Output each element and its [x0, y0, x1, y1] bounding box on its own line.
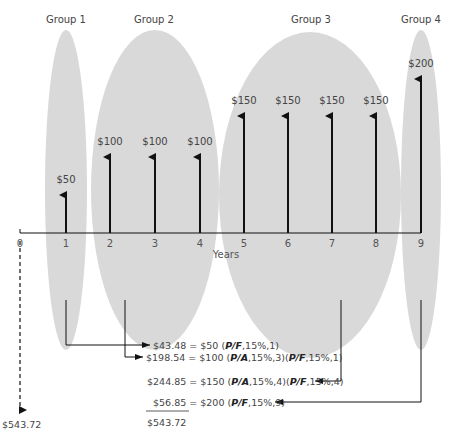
equation-4: $56.85 = $200 (P/F,15%,9) [153, 397, 285, 408]
equation-3: $244.85 = $150 (P/A,15%,4)(P/F,15%,4) [147, 376, 343, 387]
tick-label-5: 5 [241, 238, 247, 249]
tick-label-3: 3 [152, 238, 158, 249]
group-ellipse-3 [219, 32, 401, 358]
equation-amount: $150 [200, 376, 224, 387]
equation-2: $198.54 = $100 (P/A,15%,3)(P/F,15%,1) [146, 352, 342, 363]
tick-label-9: 9 [418, 238, 424, 249]
group-labels: Group 1Group 2Group 3Group 4 [46, 14, 441, 25]
tick-label-7: 7 [329, 238, 335, 249]
cash-flow-label-2: $100 [97, 136, 122, 147]
tick-label-2: 2 [107, 238, 113, 249]
cash-flow-label-7: $150 [319, 95, 344, 106]
cash-flow-label-3: $100 [142, 136, 167, 147]
group-label-2: Group 2 [134, 14, 174, 25]
tick-label-4: 4 [197, 238, 203, 249]
group-label-3: Group 3 [291, 14, 331, 25]
present-worth-arrow: $543.72 [2, 241, 41, 430]
total-value: $543.72 [147, 417, 186, 428]
equation-result: $56.85 [153, 397, 186, 408]
tick-label-6: 6 [285, 238, 291, 249]
tick-label-8: 8 [373, 238, 379, 249]
equation-amount: $50 [200, 340, 218, 351]
cash-flow-label-6: $150 [275, 95, 300, 106]
tick-label-1: 1 [63, 238, 69, 249]
equation-result: $198.54 [146, 352, 185, 363]
equation-1: $43.48 = $50 (P/F,15%,1) [153, 340, 279, 351]
cash-flow-diagram: Group 1Group 2Group 3Group 4 0123456789Y… [0, 0, 450, 440]
cash-flow-label-9: $200 [408, 58, 433, 69]
equations: $43.48 = $50 (P/F,15%,1)$198.54 = $100 (… [146, 340, 343, 429]
group-label-1: Group 1 [46, 14, 86, 25]
cash-flow-label-4: $100 [187, 136, 212, 147]
cash-flow-label-5: $150 [231, 95, 256, 106]
equation-result: $244.85 [147, 376, 186, 387]
equation-amount: $100 [199, 352, 223, 363]
cash-flow-label-8: $150 [363, 95, 388, 106]
present-worth-label: $543.72 [2, 419, 41, 430]
group-label-4: Group 4 [401, 14, 441, 25]
equation-result: $43.48 [153, 340, 186, 351]
cash-flow-label-1: $50 [56, 174, 75, 185]
axis-label: Years [212, 249, 239, 260]
equation-amount: $200 [200, 397, 224, 408]
